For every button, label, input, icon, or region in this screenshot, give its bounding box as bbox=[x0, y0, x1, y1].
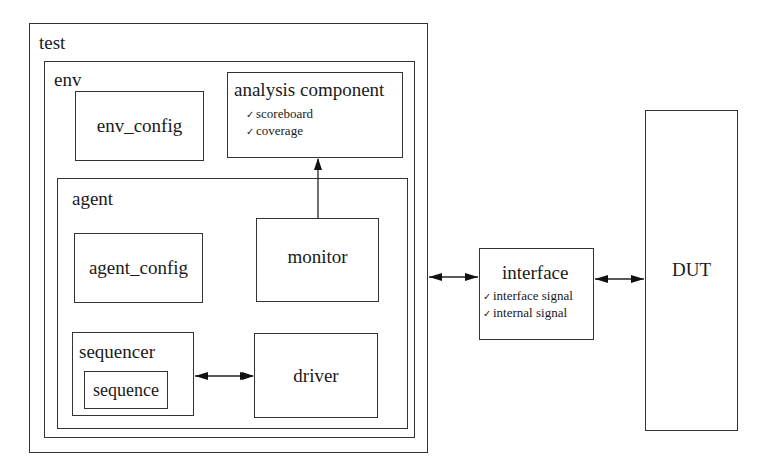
check-icon: ✓ bbox=[246, 109, 254, 120]
check-icon: ✓ bbox=[483, 308, 491, 319]
check-icon: ✓ bbox=[483, 291, 491, 302]
monitor-box: monitor bbox=[256, 218, 379, 302]
test-label: test bbox=[39, 33, 65, 52]
env-config-label: env_config bbox=[76, 92, 203, 160]
interface-item-label: internal signal bbox=[493, 305, 567, 320]
interface-label: interface bbox=[502, 263, 568, 282]
sequencer-label: sequencer bbox=[79, 342, 155, 361]
arrowhead-right-icon bbox=[465, 273, 478, 281]
dut-label: DUT bbox=[646, 111, 737, 430]
interface-item-interface-signal: ✓interface signal bbox=[483, 288, 573, 305]
interface-item-label: interface signal bbox=[493, 288, 573, 303]
interface-item-internal-signal: ✓internal signal bbox=[483, 305, 573, 322]
analysis-item-label: scoreboard bbox=[256, 106, 313, 121]
analysis-item-label: coverage bbox=[256, 123, 303, 138]
analysis-component-items: ✓scoreboard ✓coverage bbox=[246, 106, 313, 140]
env-label: env bbox=[54, 70, 81, 89]
agent-label: agent bbox=[72, 189, 113, 208]
arrowhead-right-icon bbox=[631, 275, 644, 283]
env-config-box: env_config bbox=[75, 91, 204, 161]
analysis-item-coverage: ✓coverage bbox=[246, 123, 313, 140]
agent-config-box: agent_config bbox=[74, 233, 203, 303]
interface-items: ✓interface signal ✓internal signal bbox=[483, 288, 573, 322]
agent-config-label: agent_config bbox=[75, 234, 202, 302]
driver-label: driver bbox=[255, 334, 377, 417]
sequence-label: sequence bbox=[85, 372, 167, 408]
driver-box: driver bbox=[254, 333, 378, 418]
arrowhead-left-icon bbox=[429, 273, 442, 281]
interface-box: interface ✓interface signal ✓internal si… bbox=[479, 248, 594, 340]
analysis-component-box: analysis component ✓scoreboard ✓coverage bbox=[227, 72, 403, 158]
dut-box: DUT bbox=[645, 110, 738, 431]
analysis-item-scoreboard: ✓scoreboard bbox=[246, 106, 313, 123]
arrowhead-left-icon bbox=[595, 275, 608, 283]
sequence-box: sequence bbox=[84, 371, 168, 409]
monitor-label: monitor bbox=[257, 219, 378, 301]
check-icon: ✓ bbox=[246, 126, 254, 137]
analysis-component-label: analysis component bbox=[234, 80, 384, 99]
